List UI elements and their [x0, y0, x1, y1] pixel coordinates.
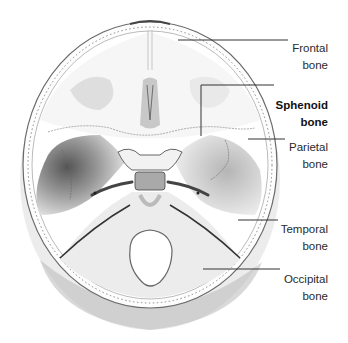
label-frontal-bone: Frontal bone	[292, 40, 328, 74]
label-parietal-bone: Parietal bone	[289, 139, 328, 173]
label-occipital-bone: Occipital bone	[284, 271, 328, 305]
frontal-region	[40, 21, 260, 138]
label-sphenoid-bone: Sphenoid bone	[276, 97, 328, 131]
label-temporal-bone: Temporal bone	[281, 221, 328, 255]
